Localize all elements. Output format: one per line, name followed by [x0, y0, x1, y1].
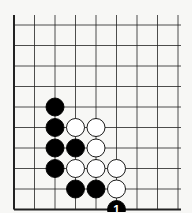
black-stone: [46, 139, 64, 157]
black-stone: [46, 98, 64, 116]
move-number-label: 1: [113, 203, 120, 212]
black-stone: [67, 139, 85, 157]
go-board: 1: [0, 0, 192, 212]
white-stone: [87, 139, 105, 157]
black-stone: [46, 119, 64, 137]
white-stone: [108, 180, 126, 198]
stones-layer: 1: [46, 98, 126, 212]
black-stone: 1: [108, 201, 126, 213]
black-stone: [67, 180, 85, 198]
white-stone: [67, 160, 85, 178]
black-stone: [46, 160, 64, 178]
black-stone: [87, 180, 105, 198]
white-stone: [87, 160, 105, 178]
white-stone: [67, 119, 85, 137]
white-stone: [108, 160, 126, 178]
white-stone: [87, 119, 105, 137]
